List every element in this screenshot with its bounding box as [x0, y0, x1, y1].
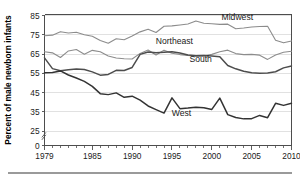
x-tick-label: 1990: [123, 151, 142, 161]
x-tick-label: 2000: [203, 151, 222, 161]
series-line-northeast: [45, 50, 292, 60]
line-chart: 0253545556575851979198519901995200020052…: [0, 0, 300, 179]
footer-divider: [8, 172, 292, 174]
y-tick-label: 0: [35, 141, 40, 151]
y-tick-label: 35: [30, 107, 40, 117]
y-tick-label: 45: [30, 88, 40, 98]
y-tick-label: 55: [30, 68, 40, 78]
chart-figure: 0253545556575851979198519901995200020052…: [0, 0, 300, 179]
y-tick-label: 65: [30, 49, 40, 59]
y-tick-label: 25: [30, 126, 40, 136]
series-label-northeast: Northeast: [156, 36, 194, 46]
x-tick-label: 1995: [163, 151, 182, 161]
x-tick-label: 2005: [242, 151, 261, 161]
y-axis-title: Percent of male newborn infants: [3, 15, 13, 145]
series-label-south: South: [189, 54, 212, 64]
series-line-south: [45, 52, 292, 75]
x-tick-label: 1979: [35, 151, 54, 161]
x-tick-label: 2010: [282, 151, 300, 161]
series-label-west: West: [172, 108, 192, 118]
x-tick-label: 1985: [83, 151, 102, 161]
y-tick-label: 85: [30, 11, 40, 21]
series-label-midwest: Midwest: [222, 12, 254, 22]
y-tick-label: 75: [30, 30, 40, 40]
